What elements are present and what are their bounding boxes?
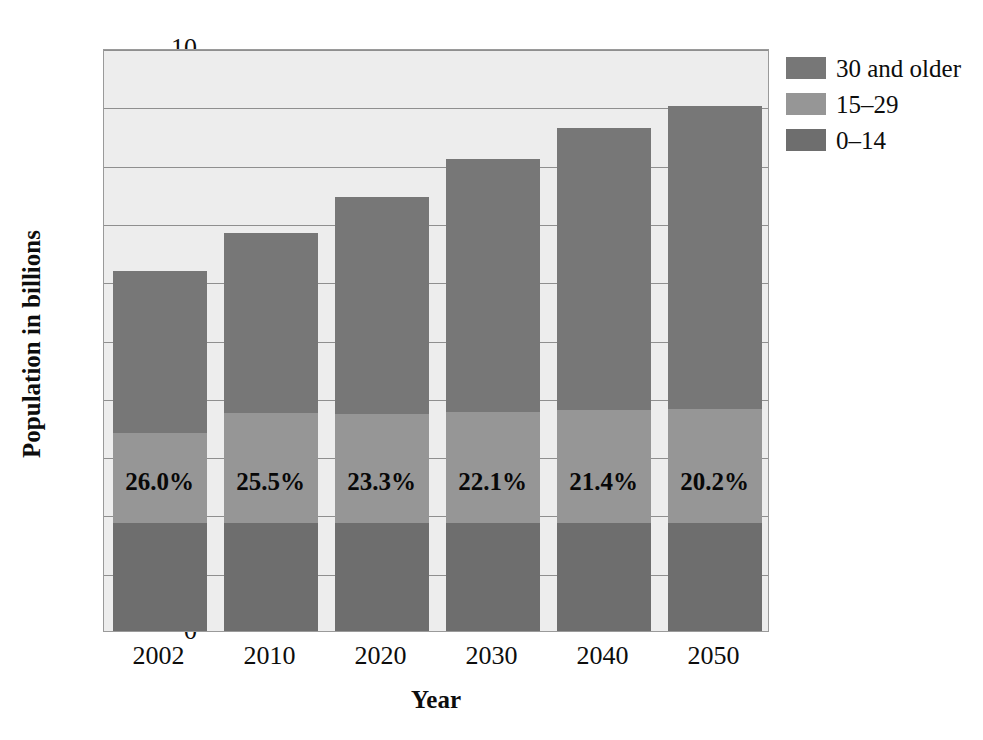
x-axis-tick-2040: 2040: [547, 641, 658, 671]
bar-segment-0-14-2050[interactable]: [668, 523, 762, 631]
legend-item-2[interactable]: 0–14: [786, 124, 976, 156]
bar-segment-0-14-2002[interactable]: [113, 523, 207, 631]
bar-2010[interactable]: 25.5%: [224, 233, 318, 631]
bar-segment-30-and-older-2010[interactable]: [224, 233, 318, 413]
bar-2040[interactable]: 21.4%: [557, 128, 651, 631]
x-axis-title: Year: [103, 686, 769, 714]
bar-segment-30-and-older-2002[interactable]: [113, 271, 207, 432]
bar-segment-30-and-older-2050[interactable]: [668, 106, 762, 409]
bar-segment-0-14-2030[interactable]: [446, 523, 540, 631]
bar-segment-30-and-older-2020[interactable]: [335, 197, 429, 414]
legend-item-0[interactable]: 30 and older: [786, 52, 976, 84]
x-axis-tick-2010: 2010: [214, 641, 325, 671]
bar-segment-30-and-older-2030[interactable]: [446, 159, 540, 412]
bar-percentage-label-2050: 20.2%: [668, 468, 762, 496]
x-axis-tick-2030: 2030: [436, 641, 547, 671]
legend-label: 15–29: [836, 92, 899, 117]
bar-2002[interactable]: 26.0%: [113, 271, 207, 631]
bar-segment-30-and-older-2040[interactable]: [557, 128, 651, 410]
legend-item-1[interactable]: 15–29: [786, 88, 976, 120]
bar-segment-15-29-2030[interactable]: [446, 412, 540, 523]
legend-swatch-icon: [786, 57, 826, 79]
stacked-bar-chart: Population in billions 012345678910 26.0…: [0, 0, 983, 740]
legend-label: 0–14: [836, 128, 886, 153]
legend-swatch-icon: [786, 93, 826, 115]
bar-segment-0-14-2010[interactable]: [224, 523, 318, 631]
plot-area: 26.0%25.5%23.3%22.1%21.4%20.2%: [103, 49, 769, 632]
legend-label: 30 and older: [836, 56, 961, 81]
bar-percentage-label-2002: 26.0%: [113, 468, 207, 496]
bar-percentage-label-2030: 22.1%: [446, 468, 540, 496]
bar-2050[interactable]: 20.2%: [668, 106, 762, 631]
legend: 30 and older15–290–14: [786, 52, 976, 160]
bar-2020[interactable]: 23.3%: [335, 197, 429, 631]
x-axis-tick-2002: 2002: [103, 641, 214, 671]
bar-segment-15-29-2050[interactable]: [668, 409, 762, 523]
legend-swatch-icon: [786, 129, 826, 151]
bar-2030[interactable]: 22.1%: [446, 159, 540, 631]
x-axis-tick-2020: 2020: [325, 641, 436, 671]
y-axis-title: Population in billions: [18, 194, 46, 494]
x-axis-tick-2050: 2050: [658, 641, 769, 671]
bar-segment-0-14-2020[interactable]: [335, 523, 429, 631]
bar-segment-0-14-2040[interactable]: [557, 523, 651, 631]
bar-segment-15-29-2040[interactable]: [557, 410, 651, 523]
bar-percentage-label-2020: 23.3%: [335, 468, 429, 496]
bars-layer: 26.0%25.5%23.3%22.1%21.4%20.2%: [104, 50, 768, 631]
bar-percentage-label-2010: 25.5%: [224, 468, 318, 496]
bar-percentage-label-2040: 21.4%: [557, 468, 651, 496]
